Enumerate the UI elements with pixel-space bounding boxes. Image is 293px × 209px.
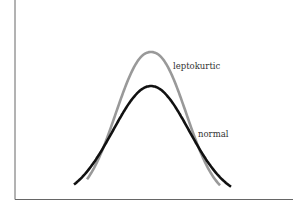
kurtosis-chart: leptokurtic normal (0, 0, 293, 209)
leptokurtic-curve (87, 52, 220, 185)
leptokurtic-label: leptokurtic (173, 61, 220, 71)
chart-canvas (0, 0, 293, 209)
normal-label: normal (198, 129, 229, 139)
